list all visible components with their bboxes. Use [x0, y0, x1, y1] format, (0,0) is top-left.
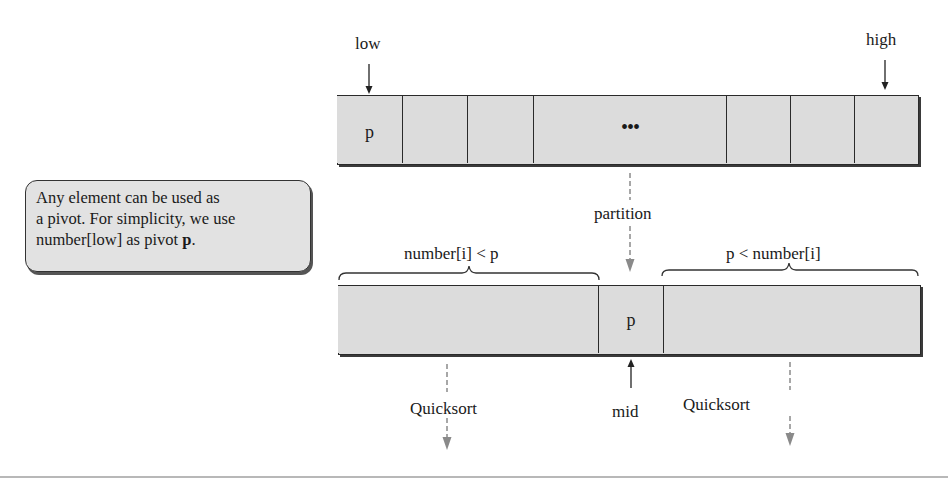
right-brace-icon [662, 263, 918, 276]
bottom-divider [0, 476, 948, 478]
quicksort-right-arrow-icon [786, 362, 795, 446]
high-pointer-arrow-icon [882, 60, 889, 90]
low-pointer-arrow-icon [366, 64, 373, 94]
left-brace-icon [339, 266, 599, 280]
quicksort-left-arrow-icon [443, 364, 452, 450]
connectors-layer [0, 0, 948, 480]
partition-arrow-icon [626, 173, 635, 272]
mid-pointer-arrow-icon [628, 359, 635, 388]
